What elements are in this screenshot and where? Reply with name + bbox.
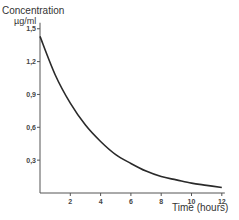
y-tick-label: 1,5 [26, 25, 36, 33]
x-tick-label: 10 [188, 198, 196, 205]
x-tick-label: 6 [129, 198, 133, 205]
y-tick-label: 1,2 [26, 58, 36, 66]
x-tick-label: 4 [99, 198, 103, 205]
y-tick-label: 0,6 [26, 124, 36, 132]
decay-curve [40, 36, 222, 187]
y-tick-label: 0,9 [26, 91, 36, 99]
x-tick-label: 12 [218, 198, 226, 205]
x-tick-label: 2 [68, 198, 72, 205]
concentration-chart: 0,30,60,91,21,524681012 [0, 0, 239, 220]
x-tick-label: 8 [159, 198, 163, 205]
axes [40, 23, 225, 193]
ticks: 0,30,60,91,21,524681012 [26, 25, 226, 205]
y-tick-label: 0,3 [26, 157, 36, 165]
